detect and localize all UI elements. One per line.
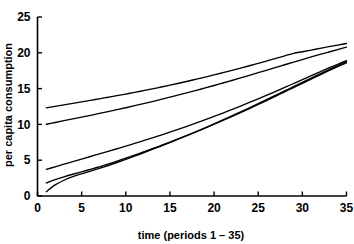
y-axis-tick-labels: 0510152025 — [17, 10, 31, 203]
y-tick-label: 10 — [17, 118, 31, 132]
x-tick-label: 25 — [252, 201, 266, 215]
x-tick-label: 0 — [34, 201, 41, 215]
chart-container: 0510152025 05101520253035 time (periods … — [0, 0, 354, 244]
y-axis-title: per capita consumption — [2, 43, 14, 167]
x-tick-label: 15 — [163, 201, 177, 215]
x-tick-label: 20 — [207, 201, 221, 215]
line-chart: 0510152025 05101520253035 time (periods … — [0, 0, 354, 244]
x-tick-label: 5 — [78, 201, 85, 215]
x-axis-tick-labels: 05101520253035 — [34, 201, 353, 215]
y-tick-label: 20 — [17, 46, 31, 60]
x-tick-label: 35 — [340, 201, 354, 215]
x-tick-label: 10 — [119, 201, 133, 215]
y-tick-label: 15 — [17, 82, 31, 96]
x-tick-label: 30 — [296, 201, 310, 215]
y-tick-label: 0 — [24, 189, 31, 203]
data-curves — [46, 43, 346, 191]
data-curve-curve-1 — [46, 43, 346, 107]
y-tick-label: 5 — [24, 153, 31, 167]
y-tick-label: 25 — [17, 10, 31, 24]
data-curve-curve-2 — [46, 47, 346, 124]
x-axis-title: time (periods 1 – 35) — [138, 229, 245, 241]
data-curve-curve-5 — [46, 62, 346, 192]
